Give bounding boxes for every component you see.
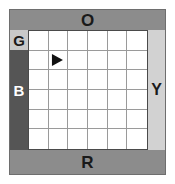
edge-label-left-green: G — [10, 30, 28, 50]
grid-cell[interactable] — [29, 51, 49, 71]
grid-cell[interactable] — [108, 90, 128, 110]
grid-cell[interactable] — [68, 70, 88, 90]
grid — [29, 31, 147, 149]
grid-cell[interactable] — [88, 129, 108, 149]
grid-cell[interactable] — [49, 129, 69, 149]
grid-cell[interactable] — [29, 90, 49, 110]
grid-cell[interactable] — [49, 110, 69, 130]
grid-cell[interactable] — [127, 129, 147, 149]
grid-cell[interactable] — [29, 129, 49, 149]
grid-cell[interactable] — [108, 70, 128, 90]
edge-left-filler — [10, 130, 28, 150]
grid-cell[interactable] — [127, 110, 147, 130]
grid-cell[interactable] — [68, 31, 88, 51]
grid-cell[interactable] — [108, 31, 128, 51]
grid-cell[interactable] — [108, 110, 128, 130]
grid-cell[interactable] — [108, 129, 128, 149]
grid-cell[interactable] — [68, 129, 88, 149]
grid-cell[interactable] — [29, 31, 49, 51]
edge-label-bottom-red: R — [10, 150, 165, 174]
grid-cell[interactable] — [88, 90, 108, 110]
grid-cell[interactable] — [29, 110, 49, 130]
grid-cell[interactable] — [127, 70, 147, 90]
grid-cell[interactable] — [29, 70, 49, 90]
grid-cell[interactable] — [49, 51, 69, 71]
grid-cell[interactable] — [127, 31, 147, 51]
grid-cell[interactable] — [49, 90, 69, 110]
grid-cell[interactable] — [68, 90, 88, 110]
grid-cell[interactable] — [88, 31, 108, 51]
grid-cell[interactable] — [88, 110, 108, 130]
grid-cell[interactable] — [68, 110, 88, 130]
grid-cell[interactable] — [49, 31, 69, 51]
grid-cell[interactable] — [127, 90, 147, 110]
grid-cell[interactable] — [127, 51, 147, 71]
edge-label-right-yellow: Y — [148, 30, 165, 150]
arrow-east-icon — [52, 54, 63, 66]
grid-container — [28, 30, 148, 150]
grid-cell[interactable] — [49, 70, 69, 90]
grid-cell[interactable] — [88, 51, 108, 71]
edge-label-left-blue: B — [10, 50, 28, 130]
edge-label-top-orange: O — [10, 10, 165, 30]
compass-grid-board: O G B Y R — [9, 9, 166, 175]
grid-cell[interactable] — [88, 70, 108, 90]
grid-cell[interactable] — [68, 51, 88, 71]
grid-cell[interactable] — [108, 51, 128, 71]
